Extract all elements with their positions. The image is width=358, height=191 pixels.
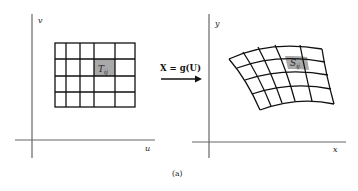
arrow-right-icon bbox=[195, 76, 202, 83]
left-u-axis-label: u bbox=[145, 144, 150, 153]
left-v-axis-label: v bbox=[38, 16, 43, 25]
right-x-axis-label: x bbox=[333, 145, 338, 154]
figure-canvas: v u Tij X = g(U) y x Sij bbox=[0, 0, 358, 191]
left-panel: v u Tij bbox=[15, 14, 155, 158]
mapping-label: X = g(U) bbox=[160, 63, 201, 73]
figure-caption: (a) bbox=[172, 169, 182, 178]
right-y-axis-label: y bbox=[214, 19, 220, 28]
mapping-arrow-group: X = g(U) bbox=[160, 63, 202, 83]
curved-grid bbox=[229, 45, 334, 110]
right-panel: y x Sij bbox=[192, 14, 346, 158]
